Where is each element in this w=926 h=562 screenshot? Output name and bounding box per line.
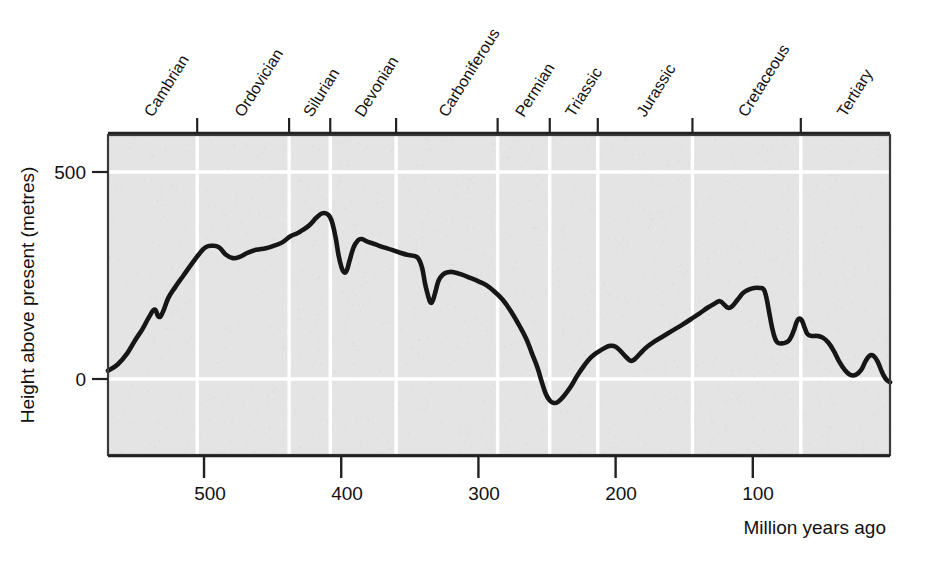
- period-label-tertiary: Tertiary: [834, 66, 876, 119]
- period-label-jurassic: Jurassic: [633, 61, 679, 120]
- period-label-ordovician: Ordovician: [231, 46, 286, 120]
- period-label-permian: Permian: [512, 60, 558, 120]
- x-tick-label-300: 300: [468, 483, 500, 504]
- x-tick-label-100: 100: [742, 483, 774, 504]
- sea-level-chart-figure: 500 0 500 400 300 200 100 Height above p…: [0, 0, 926, 562]
- y-tick-label-500: 500: [54, 162, 86, 183]
- period-label-cretaceous: Cretaceous: [735, 41, 793, 119]
- period-label-silurian: Silurian: [300, 65, 343, 119]
- period-label-devonian: Devonian: [351, 53, 401, 119]
- period-label-carboniferous: Carboniferous: [435, 25, 503, 119]
- chart-svg: 500 0 500 400 300 200 100 Height above p…: [0, 0, 926, 562]
- x-axis-ticks: [204, 456, 753, 478]
- period-label-cambrian: Cambrian: [141, 52, 192, 120]
- period-labels-group: CambrianOrdovicianSilurianDevonianCarbon…: [141, 25, 876, 119]
- x-axis-title: Million years ago: [743, 517, 886, 538]
- x-tick-label-500: 500: [194, 483, 226, 504]
- x-tick-label-400: 400: [331, 483, 363, 504]
- period-boundary-ticks: [197, 118, 801, 134]
- y-axis-title: Height above present (metres): [17, 167, 38, 424]
- x-tick-label-200: 200: [605, 483, 637, 504]
- period-label-triassic: Triassic: [562, 64, 605, 119]
- y-tick-label-0: 0: [75, 369, 86, 390]
